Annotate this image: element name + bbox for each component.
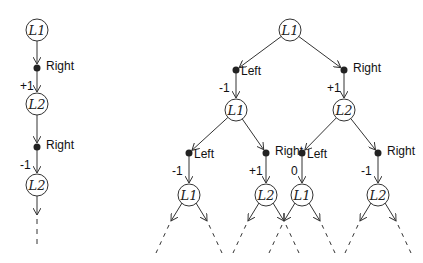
state-label: L1 xyxy=(293,188,311,203)
action-label: Right xyxy=(387,144,416,158)
continuation-arrow xyxy=(309,203,320,221)
action-label: Left xyxy=(241,64,262,78)
action-label: Left xyxy=(307,147,328,161)
continuation-arrow xyxy=(385,203,396,221)
continuation-dashes xyxy=(156,225,169,253)
chance-node-dot xyxy=(341,67,348,74)
state-label: L1 xyxy=(281,23,299,38)
state-label: L2 xyxy=(28,97,46,112)
chance-node-dot xyxy=(263,150,270,157)
edge-to-chance xyxy=(299,37,341,68)
reward-label: -1 xyxy=(172,164,183,178)
continuation-dashes xyxy=(209,225,222,253)
continuation-dashes xyxy=(345,225,358,253)
reward-label: -1 xyxy=(361,164,372,178)
continuation-arrow xyxy=(171,203,182,221)
chance-node-dot xyxy=(34,65,41,72)
reward-label: +1 xyxy=(20,79,34,93)
reward-label: +1 xyxy=(249,164,263,178)
action-label: Right xyxy=(353,61,382,75)
reward-label: -1 xyxy=(219,81,230,95)
reward-label: +1 xyxy=(327,81,341,95)
state-label: L2 xyxy=(335,103,353,118)
action-label: Left xyxy=(194,147,215,161)
chance-node-dot xyxy=(375,150,382,157)
continuation-arrow xyxy=(273,203,284,221)
continuation-dashes xyxy=(269,225,282,253)
continuation-dashes xyxy=(322,225,335,253)
continuation-dashes xyxy=(286,225,299,253)
edge-to-chance xyxy=(351,119,376,150)
state-label: L1 xyxy=(227,103,245,118)
left-tree: Right+1Right-1L1L2L2 xyxy=(20,19,75,247)
edge-to-chance xyxy=(305,118,337,150)
continuation-arrow xyxy=(248,203,259,221)
edge-to-chance xyxy=(242,119,263,150)
reward-label: 0 xyxy=(291,164,298,178)
state-label: L2 xyxy=(28,178,46,193)
edge-to-chance xyxy=(192,117,228,150)
action-label: Right xyxy=(46,138,75,152)
edge-to-chance xyxy=(239,37,281,68)
reward-label: -1 xyxy=(20,158,31,172)
state-label: L2 xyxy=(257,188,275,203)
right-tree: Left-1Right+1Left-1Right+1Left0Right-1L1… xyxy=(156,19,416,253)
continuation-arrow xyxy=(360,203,371,221)
continuation-dashes xyxy=(398,225,411,253)
continuation-arrow xyxy=(284,203,295,221)
action-label: Right xyxy=(46,59,75,73)
state-label: L1 xyxy=(28,23,46,38)
continuation-dashes xyxy=(233,225,246,253)
state-label: L1 xyxy=(180,188,198,203)
chance-node-dot xyxy=(186,150,193,157)
state-label: L2 xyxy=(369,188,387,203)
continuation-arrow xyxy=(196,203,207,221)
chance-node-dot xyxy=(233,67,240,74)
chance-node-dot xyxy=(34,144,41,151)
chance-node-dot xyxy=(299,150,306,157)
game-tree-diagram: Right+1Right-1L1L2L2 Left-1Right+1Left-1… xyxy=(0,0,423,263)
